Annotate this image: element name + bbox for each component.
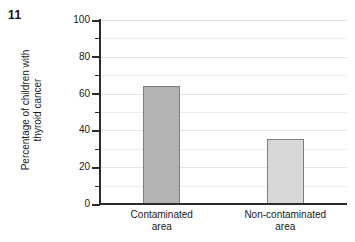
gridline-major — [100, 130, 347, 131]
y-axis-tick-major — [92, 167, 100, 169]
gridline-minor — [100, 38, 347, 39]
plot-area — [100, 20, 347, 204]
gridline-major — [100, 20, 347, 21]
y-axis-tick-label: 60 — [48, 89, 90, 99]
gridline-major — [100, 167, 347, 168]
bar — [143, 86, 180, 204]
y-axis-tick-minor — [95, 75, 100, 76]
bar — [267, 139, 304, 204]
gridline-major — [100, 57, 347, 58]
bar-chart: 020406080100 Percentage of children with… — [0, 0, 355, 242]
y-axis-tick-major — [92, 93, 100, 95]
y-axis-tick-labels: 020406080100 — [42, 0, 90, 242]
y-axis-tick-label: 40 — [48, 125, 90, 135]
y-axis-tick-label: 20 — [48, 162, 90, 172]
x-axis-category-label: Contaminated area — [100, 209, 224, 233]
y-axis-tick-minor — [95, 149, 100, 150]
gridline-minor — [100, 75, 347, 76]
y-axis-tick-major — [92, 204, 100, 206]
gridline-minor — [100, 186, 347, 187]
y-axis-tick-label: 100 — [48, 15, 90, 25]
y-axis-title: Percentage of children with thyroid canc… — [20, 30, 44, 190]
y-axis-tick-minor — [95, 186, 100, 187]
y-axis-tick-major — [92, 20, 100, 22]
y-axis-tick-minor — [95, 112, 100, 113]
y-axis-tick-minor — [95, 38, 100, 39]
gridline-minor — [100, 112, 347, 113]
y-axis-tick-major — [92, 130, 100, 132]
y-axis-tick-label: 80 — [48, 52, 90, 62]
y-axis-tick-label: 0 — [48, 199, 90, 209]
gridline-minor — [100, 149, 347, 150]
y-axis-tick-major — [92, 56, 100, 58]
gridline-major — [100, 94, 347, 95]
x-axis-line — [99, 203, 347, 205]
x-axis-category-label: Non-contaminated area — [224, 209, 348, 233]
